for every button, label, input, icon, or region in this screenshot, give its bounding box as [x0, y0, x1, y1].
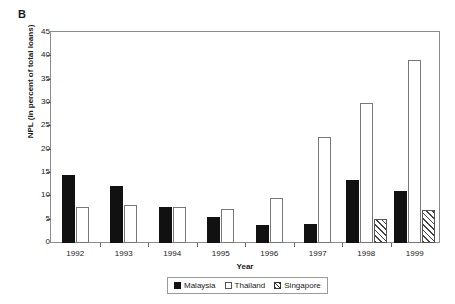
y-axis-tick-label: 45	[24, 28, 50, 36]
y-axis-tick-group: 051015202530354045	[0, 0, 50, 304]
bar-group	[245, 32, 294, 243]
bar-malaysia-1995	[207, 217, 220, 243]
x-axis-tick-mark	[391, 243, 392, 247]
x-axis-tick-mark	[197, 243, 198, 247]
y-axis-tick-mark	[47, 102, 51, 103]
x-axis-tick-mark	[294, 243, 295, 247]
legend-label: Singapore	[284, 282, 320, 290]
x-axis-tick-label: 1997	[298, 249, 338, 258]
x-axis-tick-label: 1999	[395, 249, 435, 258]
x-axis-tick-label: 1998	[346, 249, 386, 258]
y-axis-tick-mark	[47, 125, 51, 126]
x-axis-tick-label: 1995	[201, 249, 241, 258]
bar-group	[51, 32, 100, 243]
bar-thailand-1997	[318, 137, 331, 243]
bar-malaysia-1997	[304, 224, 317, 243]
bar-thailand-1995	[221, 209, 234, 243]
legend-swatch-malaysia-icon	[174, 282, 181, 289]
bar-group	[148, 32, 197, 243]
x-axis-tick-label: 1996	[249, 249, 289, 258]
y-axis-tick-label: 0	[24, 238, 50, 246]
legend-swatch-singapore-icon	[274, 282, 281, 289]
bar-malaysia-1994	[159, 207, 172, 243]
bar-thailand-1999	[408, 60, 421, 243]
bar-malaysia-1998	[346, 180, 359, 243]
bar-group	[391, 32, 440, 243]
bar-group	[294, 32, 343, 243]
bar-group	[100, 32, 149, 243]
bar-singapore-1999	[422, 210, 435, 243]
bar-malaysia-1996	[256, 225, 269, 243]
y-axis-tick-mark	[47, 79, 51, 80]
bar-group	[342, 32, 391, 243]
x-axis-tick-mark	[342, 243, 343, 247]
bar-thailand-1998	[360, 103, 373, 243]
bar-malaysia-1993	[110, 186, 123, 243]
x-axis-tick-label: 1994	[152, 249, 192, 258]
bars-layer	[51, 32, 439, 243]
legend-label: Malaysia	[184, 282, 216, 290]
x-axis-tick-label: 1992	[55, 249, 95, 258]
x-axis-tick-mark	[245, 243, 246, 247]
x-axis-tick-mark	[148, 243, 149, 247]
chart-legend: MalaysiaThailandSingapore	[167, 277, 328, 294]
y-axis-tick-mark	[47, 55, 51, 56]
bar-thailand-1996	[270, 198, 283, 243]
bar-malaysia-1999	[394, 191, 407, 243]
legend-item-malaysia[interactable]: Malaysia	[174, 282, 216, 290]
x-axis-tick-label: 1993	[104, 249, 144, 258]
chart-figure: B NPL (in percent of total loans) 051015…	[0, 0, 455, 304]
y-axis-tick-mark	[47, 172, 51, 173]
bar-group	[197, 32, 246, 243]
bar-thailand-1994	[173, 207, 186, 243]
bar-thailand-1992	[76, 207, 89, 243]
bar-malaysia-1992	[62, 175, 75, 243]
x-axis-title: Year	[50, 262, 440, 271]
y-axis-tick-mark	[47, 149, 51, 150]
legend-item-thailand[interactable]: Thailand	[225, 282, 266, 290]
y-axis-tick-mark	[47, 219, 51, 220]
bar-thailand-1993	[124, 205, 137, 243]
legend-item-singapore[interactable]: Singapore	[274, 282, 320, 290]
legend-swatch-thailand-icon	[225, 282, 232, 289]
legend-label: Thailand	[235, 282, 266, 290]
x-axis-tick-mark	[100, 243, 101, 247]
bar-singapore-1998	[374, 219, 387, 243]
y-axis-tick-mark	[47, 195, 51, 196]
